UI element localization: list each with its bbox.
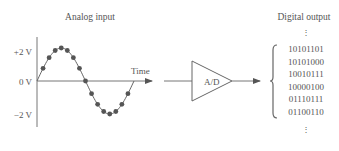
sample-dot bbox=[83, 79, 88, 84]
analog-input-title: Analog input bbox=[65, 12, 115, 22]
code-row: 01110111 bbox=[289, 94, 324, 104]
ellipsis-top: ⋮ bbox=[302, 28, 310, 37]
sample-dot bbox=[101, 109, 106, 114]
y-label-zero: 0 V bbox=[19, 77, 33, 87]
code-row: 01100110 bbox=[288, 107, 324, 117]
ad-label: A/D bbox=[204, 77, 220, 87]
y-label-plus2: +2 V bbox=[14, 47, 33, 57]
code-row: 10000100 bbox=[288, 82, 325, 92]
sample-dot bbox=[107, 112, 112, 117]
digital-output-title: Digital output bbox=[277, 12, 330, 22]
sample-dot bbox=[59, 46, 64, 51]
code-row: 10101101 bbox=[288, 44, 324, 54]
sample-dot bbox=[65, 48, 70, 53]
binary-codes: 10101101 10101000 10010111 10000100 0111… bbox=[288, 44, 325, 117]
sample-dot bbox=[113, 109, 118, 114]
analog-to-digital-diagram: Analog input +2 V 0 V −2 V Time A/D Digi… bbox=[0, 0, 339, 151]
ellipsis-bottom: ⋮ bbox=[302, 125, 310, 134]
sample-dot bbox=[77, 66, 82, 71]
y-label-minus2: −2 V bbox=[14, 110, 33, 120]
sample-dot bbox=[53, 48, 58, 53]
sample-dot bbox=[89, 91, 94, 96]
sample-dot bbox=[47, 55, 52, 60]
sample-dot bbox=[119, 102, 124, 107]
sample-dot bbox=[95, 102, 100, 107]
sample-dot bbox=[41, 66, 46, 71]
brace bbox=[270, 45, 277, 118]
sample-dot bbox=[71, 55, 76, 60]
sample-dot bbox=[126, 91, 131, 96]
code-row: 10101000 bbox=[288, 57, 325, 67]
code-row: 10010111 bbox=[288, 69, 323, 79]
x-label-time: Time bbox=[131, 66, 150, 76]
